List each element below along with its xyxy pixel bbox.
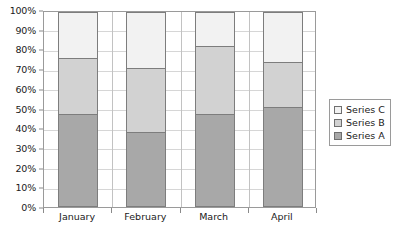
bar-segment-series-a[interactable] [195,114,235,207]
legend-swatch-icon [334,106,342,114]
y-axis-tick-label: 0% [0,203,36,213]
x-axis-tick-mark [248,208,249,213]
x-axis: JanuaryFebruaryMarchApril [43,212,316,234]
legend-swatch-icon [334,132,342,140]
bar-segment-series-b[interactable] [263,62,303,107]
bar-segment-series-c[interactable] [126,12,166,69]
bar-group[interactable] [58,10,98,207]
y-axis-tick-label: 80% [0,46,36,56]
bar-group[interactable] [126,10,166,207]
x-axis-tick-mark [43,208,44,213]
category-separator [112,12,113,207]
bar-segment-series-a[interactable] [263,107,303,207]
y-axis-tick-label: 30% [0,144,36,154]
y-axis-tick-mark [39,168,43,169]
category-separator [181,12,182,207]
bar-group[interactable] [263,10,303,207]
x-axis-tick-mark [111,208,112,213]
legend-label: Series C [346,105,385,115]
y-axis-tick-mark [39,30,43,31]
legend: Series CSeries BSeries A [329,99,391,146]
bar-segment-series-a[interactable] [126,132,166,207]
legend-swatch-icon [334,119,342,127]
bar-segment-series-b[interactable] [195,46,235,115]
y-axis-tick-mark [39,188,43,189]
y-axis: 100%90%80%70%60%50%40%30%20%10%0% [0,11,36,208]
y-axis-tick-mark [39,50,43,51]
bar-segment-series-c[interactable] [58,12,98,59]
y-axis-tick-mark [39,109,43,110]
legend-item-series-a[interactable]: Series A [334,129,385,142]
y-axis-tick-label: 40% [0,124,36,134]
y-axis-tick-label: 70% [0,65,36,75]
y-axis-tick-label: 20% [0,164,36,174]
y-axis-tick-mark [39,129,43,130]
y-axis-tick-label: 90% [0,26,36,36]
legend-label: Series A [346,131,385,141]
bar-segment-series-b[interactable] [126,68,166,133]
bar-segment-series-c[interactable] [263,12,303,63]
y-axis-tick-label: 60% [0,85,36,95]
x-axis-tick-mark [180,208,181,213]
x-axis-tick-label: April [237,212,327,222]
y-axis-tick-mark [39,70,43,71]
y-axis-tick-mark [39,148,43,149]
bar-segment-series-a[interactable] [58,114,98,207]
y-axis-tick-mark [39,11,43,12]
category-separator [249,12,250,207]
y-axis-tick-label: 10% [0,184,36,194]
y-axis-tick-label: 100% [0,6,36,16]
bar-group[interactable] [195,10,235,207]
plot-area [43,11,316,208]
legend-item-series-b[interactable]: Series B [334,116,385,129]
y-axis-tick-label: 50% [0,105,36,115]
bar-segment-series-c[interactable] [195,12,235,47]
bar-segment-series-b[interactable] [58,58,98,115]
x-axis-tick-mark [316,208,317,213]
y-axis-tick-mark [39,89,43,90]
stacked-bar-chart: 100%90%80%70%60%50%40%30%20%10%0% Januar… [0,0,399,242]
legend-label: Series B [346,118,385,128]
legend-item-series-c[interactable]: Series C [334,103,385,116]
